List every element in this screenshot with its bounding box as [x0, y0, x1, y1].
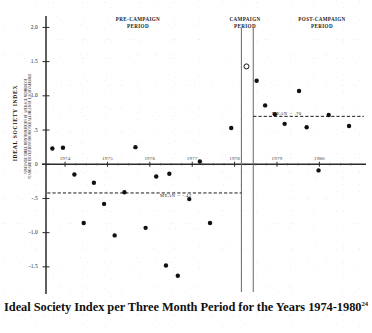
- x-axis-tick-label: 1980: [306, 156, 332, 161]
- data-point: [122, 190, 126, 194]
- data-point: [297, 89, 301, 93]
- region-label-post-campaign: POST-CAMPAIGN PERIOD: [282, 16, 362, 30]
- data-point: [50, 146, 54, 150]
- region-label-pre-campaign: PRE-CAMPAIGN PERIOD: [92, 16, 184, 30]
- data-point: [92, 181, 96, 185]
- y-axis-tick-label: 0: [16, 161, 38, 167]
- mean-line-label-post: MEAN = .70: [272, 111, 302, 116]
- figure-caption: Ideal Society Index per Three Month Peri…: [0, 300, 372, 315]
- x-axis-tick-label: 1978: [222, 156, 248, 161]
- data-point: [167, 172, 171, 176]
- y-axis-tick-label: -1.0: [16, 229, 38, 235]
- x-axis-tick-label: 1977: [179, 156, 205, 161]
- data-point: [72, 172, 76, 176]
- x-axis-tick-label: 1979: [264, 156, 290, 161]
- data-point: [133, 145, 137, 149]
- data-point: [102, 202, 106, 206]
- y-axis-tick-label: 1.0: [16, 92, 38, 98]
- data-point: [154, 174, 158, 178]
- chart-page: IDEAL SOCIETY INDEX SUM OVER THREE MONTH…: [0, 0, 372, 333]
- plot-canvas: [0, 0, 372, 296]
- x-axis-tick-label: 1974: [52, 156, 78, 161]
- mean-line-label-pre: MEAN = -.42: [160, 193, 192, 198]
- y-axis-tick-label: .5: [16, 127, 38, 133]
- y-axis-tick-label: -.5: [16, 195, 38, 201]
- x-axis-tick-label: 1976: [137, 156, 163, 161]
- y-axis-tick-label: 2.0: [16, 24, 38, 30]
- data-point: [164, 263, 168, 267]
- data-point: [112, 233, 116, 237]
- data-point: [143, 226, 147, 230]
- y-axis-tick-label: -1.5: [16, 263, 38, 269]
- caption-footnote-marker: 24: [361, 300, 368, 307]
- data-point: [282, 122, 286, 126]
- data-point: [327, 113, 331, 117]
- data-point: [263, 103, 267, 107]
- data-point: [347, 124, 351, 128]
- data-point: [82, 221, 86, 225]
- x-axis-tick-label: 1975: [94, 156, 120, 161]
- scatter-plot: IDEAL SOCIETY INDEX SUM OVER THREE MONTH…: [0, 0, 372, 296]
- data-point: [316, 168, 320, 172]
- data-point-open: [244, 64, 249, 69]
- data-point: [208, 221, 212, 225]
- data-point: [176, 274, 180, 278]
- data-point: [229, 126, 233, 130]
- y-axis-tick-label: 1.5: [16, 58, 38, 64]
- data-point: [304, 125, 308, 129]
- region-label-campaign: CAMPAIGN PERIOD: [212, 16, 278, 30]
- caption-text: Ideal Society Index per Three Month Peri…: [4, 300, 361, 314]
- data-point: [61, 146, 65, 150]
- data-point: [254, 79, 258, 83]
